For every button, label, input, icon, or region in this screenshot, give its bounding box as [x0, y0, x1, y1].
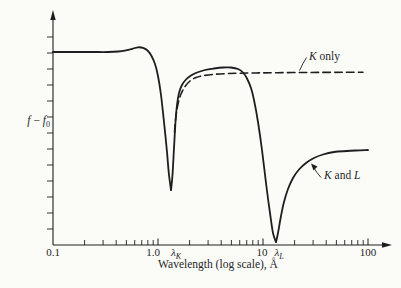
- annotation-k-and-l-var1: K: [324, 169, 332, 181]
- x-axis-label: Wavelength (log scale), Å: [118, 259, 318, 271]
- annotation-k-only-rest: only: [317, 50, 340, 62]
- x-tick-label-0.1: 0.1: [37, 247, 69, 258]
- annotation-k-and-l-mid: and: [332, 169, 354, 181]
- annotation-k-only-var: K: [309, 50, 317, 62]
- y-label-sub-zero: 0: [46, 120, 50, 129]
- x-tick-label-100: 100: [352, 247, 384, 258]
- annotation-k-only: K only: [309, 51, 340, 63]
- x-label-lambda-k: λK: [165, 247, 187, 258]
- annotation-k-and-l-var2: L: [354, 169, 360, 181]
- annotation-k-and-l: K and L: [324, 170, 360, 182]
- y-label-minus: −: [31, 114, 43, 126]
- x-label-lambda-l: λL: [268, 247, 290, 258]
- figure-canvas: f − f0 0.1 1.0 λK 10 λL 100 Wavelength (…: [0, 0, 401, 288]
- y-axis-label: f − f0: [16, 115, 50, 127]
- chart-svg: [0, 0, 401, 288]
